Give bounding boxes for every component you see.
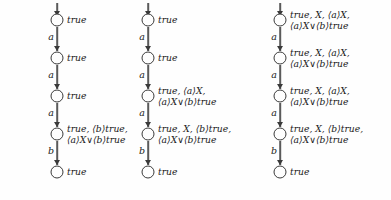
edge-label: b bbox=[139, 144, 145, 155]
state-label-line: ⟨a⟩X∨⟨b⟩true bbox=[158, 134, 231, 145]
state-label-line: true, ⟨b⟩true, bbox=[67, 123, 128, 134]
state-node bbox=[51, 128, 64, 141]
state-label: true bbox=[67, 90, 86, 101]
state-label: true, X, ⟨a⟩X,⟨a⟩X∨⟨b⟩true bbox=[290, 9, 350, 32]
edge-label: a bbox=[139, 68, 145, 79]
state-label-line: ⟨a⟩X∨⟨b⟩true bbox=[290, 58, 350, 69]
edge-label: a bbox=[139, 106, 145, 117]
state-label: true, X, ⟨b⟩true,⟨a⟩X∨⟨b⟩true bbox=[290, 123, 363, 146]
transition-arrowhead bbox=[277, 160, 283, 165]
edge-label: a bbox=[271, 106, 277, 117]
state-node bbox=[142, 52, 155, 65]
state-label: true, X, ⟨a⟩X,⟨a⟩X∨⟨b⟩true bbox=[290, 85, 350, 108]
state-node bbox=[142, 90, 155, 103]
state-label-line: true bbox=[67, 166, 86, 177]
state-label-line: true bbox=[67, 90, 86, 101]
state-label-line: true, X, ⟨b⟩true, bbox=[290, 123, 363, 134]
edge-label: a bbox=[271, 30, 277, 41]
state-label: true, ⟨a⟩X,⟨a⟩X∨⟨b⟩true bbox=[158, 85, 216, 108]
state-node bbox=[142, 14, 155, 27]
state-label-line: true, X, ⟨b⟩true, bbox=[158, 123, 231, 134]
transition-arrowhead bbox=[54, 46, 60, 51]
state-node bbox=[274, 90, 287, 103]
transition-arrowhead bbox=[54, 122, 60, 127]
edge-label: a bbox=[271, 68, 277, 79]
diagram-canvas: aaabtruetruetruetrue, ⟨b⟩true,⟨a⟩X∨⟨b⟩tr… bbox=[0, 0, 391, 200]
state-node bbox=[274, 166, 287, 179]
state-label-line: true bbox=[67, 14, 86, 25]
transition-arrowhead bbox=[277, 46, 283, 51]
state-label: true bbox=[158, 52, 177, 63]
edge-label: a bbox=[48, 68, 54, 79]
state-label: true bbox=[158, 166, 177, 177]
state-label-line: true bbox=[290, 166, 309, 177]
transition-arrowhead bbox=[54, 84, 60, 89]
state-label: true, X, ⟨b⟩true,⟨a⟩X∨⟨b⟩true bbox=[158, 123, 231, 146]
state-label-line: ⟨a⟩X∨⟨b⟩true bbox=[158, 96, 216, 107]
state-label-line: true, X, ⟨a⟩X, bbox=[290, 47, 350, 58]
state-label-line: true bbox=[158, 166, 177, 177]
edge-label: b bbox=[48, 144, 54, 155]
state-node bbox=[51, 166, 64, 179]
state-node bbox=[274, 52, 287, 65]
edge-label: a bbox=[139, 30, 145, 41]
transition-arrowhead bbox=[145, 160, 151, 165]
state-label-line: true, X, ⟨a⟩X, bbox=[290, 85, 350, 96]
edge-label: b bbox=[271, 144, 277, 155]
state-label-line: true bbox=[158, 52, 177, 63]
state-node bbox=[274, 128, 287, 141]
state-label-line: true, X, ⟨a⟩X, bbox=[290, 9, 350, 20]
transition-arrowhead bbox=[145, 46, 151, 51]
transition-arrowhead bbox=[277, 84, 283, 89]
state-label-line: true bbox=[158, 14, 177, 25]
transition-arrowhead bbox=[277, 122, 283, 127]
state-label: true bbox=[290, 166, 309, 177]
state-label: true, ⟨b⟩true,⟨a⟩X∨⟨b⟩true bbox=[67, 123, 128, 146]
transition-arrowhead bbox=[145, 84, 151, 89]
state-label: true bbox=[67, 52, 86, 63]
state-node bbox=[51, 90, 64, 103]
state-label-line: true bbox=[67, 52, 86, 63]
state-node bbox=[142, 166, 155, 179]
state-label: true bbox=[67, 14, 86, 25]
state-node bbox=[274, 14, 287, 27]
state-label-line: ⟨a⟩X∨⟨b⟩true bbox=[290, 96, 350, 107]
state-label: true bbox=[158, 14, 177, 25]
state-label-line: ⟨a⟩X∨⟨b⟩true bbox=[290, 20, 350, 31]
state-label: true bbox=[67, 166, 86, 177]
state-node bbox=[51, 52, 64, 65]
edge-label: a bbox=[48, 106, 54, 117]
state-node bbox=[51, 14, 64, 27]
state-label-line: ⟨a⟩X∨⟨b⟩true bbox=[67, 134, 128, 145]
state-label-line: true, ⟨a⟩X, bbox=[158, 85, 216, 96]
state-label: true, X, ⟨a⟩X,⟨a⟩X∨⟨b⟩true bbox=[290, 47, 350, 70]
state-node bbox=[142, 128, 155, 141]
state-label-line: ⟨a⟩X∨⟨b⟩true bbox=[290, 134, 363, 145]
transition-arrowhead bbox=[145, 122, 151, 127]
edge-label: a bbox=[48, 30, 54, 41]
transition-arrowhead bbox=[54, 160, 60, 165]
